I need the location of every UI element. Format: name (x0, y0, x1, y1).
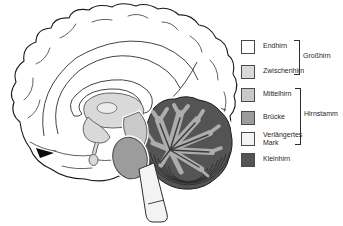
endhirn-swatch (241, 40, 255, 54)
mittelhirn-swatch (241, 88, 255, 102)
interthalamic-adhesion (97, 103, 117, 114)
zwischenhirn-swatch (241, 65, 255, 79)
hirnstamm-bracket (295, 88, 301, 145)
verlaengertes-mark-swatch (241, 132, 255, 146)
brain-sagittal-diagram (0, 0, 343, 226)
mittelhirn-label: Mittelhirn (263, 90, 291, 98)
bruecke-label: Brücke (263, 113, 285, 121)
bruecke-swatch (241, 111, 255, 125)
hirnstamm-label: Hirnstamm (304, 110, 338, 117)
brain-figure: Endhirn Zwischenhirn Mittelhirn Brücke V… (0, 0, 343, 226)
pituitary-gland (89, 155, 98, 166)
kleinhirn-label: Kleinhirn (263, 155, 290, 163)
endhirn-label: Endhirn (263, 42, 287, 50)
grosshirn-bracket (294, 40, 300, 75)
grosshirn-label: Großhirn (303, 52, 331, 59)
kleinhirn-swatch (241, 153, 255, 167)
